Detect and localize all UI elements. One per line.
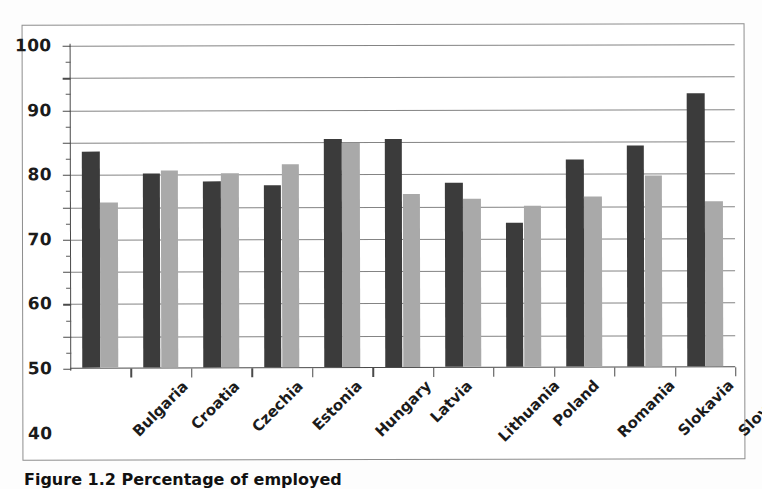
- bar-group: [675, 43, 736, 366]
- plot-area: 0102030405060708090100: [70, 44, 736, 368]
- y-tick-90: 90: [63, 78, 71, 79]
- x-tick: [493, 368, 494, 377]
- y-tick-label-100: 100: [15, 35, 52, 55]
- x-tick: [614, 368, 615, 377]
- x-tick: [433, 368, 434, 377]
- x-axis-category-labels: BulgariaCroatiaCzechiaEstoniaHungaryLatv…: [71, 376, 736, 457]
- bar-group: [312, 44, 373, 367]
- bar: [566, 160, 584, 367]
- bar: [463, 199, 481, 367]
- bar-group: [131, 44, 192, 367]
- y-tick-label-50: 50: [28, 358, 53, 378]
- x-tick: [191, 368, 192, 377]
- x-axis-label-slokavia: Slokavia: [674, 376, 737, 439]
- bar: [506, 223, 524, 367]
- x-axis-label-bulgaria: Bulgaria: [130, 377, 193, 440]
- bar-group: [554, 44, 615, 367]
- x-axis-label-romania: Romania: [614, 376, 679, 441]
- bar: [82, 151, 100, 367]
- bar-group: [373, 44, 434, 367]
- bar: [584, 197, 602, 367]
- bar: [324, 139, 342, 367]
- bar: [203, 182, 221, 368]
- bar: [445, 183, 463, 367]
- y-tick-0: 0: [63, 369, 71, 370]
- x-tick: [312, 368, 313, 377]
- bar: [342, 143, 360, 368]
- bar: [626, 145, 644, 366]
- y-tick-20: 20: [63, 304, 71, 305]
- x-tick: [554, 368, 555, 377]
- y-tick-10: 10: [63, 336, 71, 337]
- x-axis-label-hungary: Hungary: [372, 377, 436, 441]
- x-tick: [735, 367, 736, 376]
- bar-group: [494, 44, 555, 367]
- bar: [385, 139, 403, 367]
- bar: [644, 176, 662, 367]
- y-tick-40: 40: [63, 239, 71, 240]
- x-tick: [373, 368, 374, 377]
- x-axis-label-croatia: Croatia: [187, 377, 243, 433]
- bar: [524, 205, 542, 367]
- x-tick: [131, 369, 132, 378]
- x-tick: [252, 368, 253, 377]
- x-axis-label-czechia: Czechia: [249, 377, 307, 436]
- bar: [687, 93, 705, 366]
- y-tick-30: 30: [63, 272, 71, 273]
- bar: [282, 164, 300, 368]
- x-axis-label-lithuania: Lithuania: [495, 377, 564, 446]
- chart-frame-border: 0102030405060708090100 BulgariaCroatiaCz…: [22, 23, 746, 461]
- figure-page: 0102030405060708090100 BulgariaCroatiaCz…: [0, 0, 762, 489]
- y-tick-70: 70: [63, 143, 71, 144]
- y-tick-label-80: 80: [27, 164, 52, 184]
- bar-group: [615, 43, 676, 366]
- bar: [161, 170, 179, 367]
- y-tick-50: 50: [63, 207, 71, 208]
- bar-group: [191, 44, 252, 367]
- bar-group: [252, 44, 313, 367]
- y-tick-label-60: 60: [28, 294, 53, 314]
- bar: [143, 174, 161, 368]
- y-tick-label-70: 70: [28, 229, 53, 249]
- bar: [705, 202, 723, 367]
- bar: [221, 174, 239, 368]
- bars-layer: [71, 43, 736, 367]
- y-tick-label-90: 90: [27, 100, 52, 120]
- bar-group: [71, 45, 132, 368]
- x-tick: [675, 367, 676, 376]
- bar: [264, 185, 282, 368]
- bar: [100, 203, 118, 368]
- bar-group: [433, 44, 494, 367]
- bar: [403, 194, 421, 367]
- y-tick-100: 100: [63, 46, 71, 47]
- y-tick-label-40: 40: [28, 423, 53, 443]
- x-axis-label-latvia: Latvia: [426, 377, 475, 426]
- x-axis-label-slovenia: Slovenia: [735, 376, 762, 440]
- y-tick-60: 60: [63, 175, 71, 176]
- y-tick-80: 80: [63, 110, 71, 111]
- figure-caption: Figure 1.2 Percentage of employed: [24, 470, 754, 489]
- x-axis-label-estonia: Estonia: [309, 377, 366, 434]
